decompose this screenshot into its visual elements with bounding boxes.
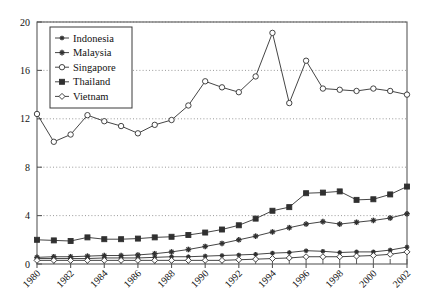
marker-circle bbox=[236, 89, 241, 94]
marker-circle bbox=[152, 122, 157, 127]
marker-circle bbox=[303, 58, 308, 63]
marker-star bbox=[287, 250, 292, 255]
marker-square bbox=[388, 192, 393, 197]
marker-star bbox=[321, 249, 326, 254]
marker-square bbox=[371, 197, 376, 202]
x-tick-label: 1990 bbox=[189, 268, 211, 290]
marker-star bbox=[253, 233, 259, 239]
y-tick-label: 16 bbox=[20, 65, 30, 76]
legend-label: Indonesia bbox=[73, 33, 114, 44]
marker-circle bbox=[68, 132, 73, 137]
x-tick-label: 1980 bbox=[20, 268, 42, 290]
x-tick-label: 2002 bbox=[390, 268, 412, 290]
marker-star bbox=[404, 211, 410, 217]
marker-circle bbox=[253, 74, 258, 79]
series-thailand bbox=[35, 184, 410, 243]
marker-circle bbox=[51, 139, 56, 144]
marker-star bbox=[387, 215, 393, 221]
marker-diamond bbox=[354, 253, 360, 259]
marker-square bbox=[304, 191, 309, 196]
marker-star bbox=[354, 219, 360, 225]
marker-square bbox=[354, 197, 359, 202]
marker-star bbox=[60, 36, 65, 41]
marker-square bbox=[51, 238, 56, 243]
marker-star bbox=[286, 225, 292, 231]
marker-circle bbox=[404, 92, 409, 97]
marker-circle bbox=[270, 30, 275, 35]
marker-diamond bbox=[253, 256, 259, 262]
marker-diamond bbox=[303, 254, 309, 260]
marker-star bbox=[169, 249, 175, 255]
marker-diamond bbox=[370, 253, 376, 259]
marker-square bbox=[102, 237, 107, 242]
marker-square bbox=[405, 184, 410, 189]
marker-square bbox=[287, 205, 292, 210]
marker-circle bbox=[354, 88, 359, 93]
marker-star bbox=[59, 50, 65, 56]
marker-square bbox=[337, 189, 342, 194]
x-tick-label: 1982 bbox=[54, 268, 76, 290]
marker-diamond bbox=[185, 257, 191, 263]
x-tick-label: 1996 bbox=[290, 268, 312, 290]
y-tick-label: 12 bbox=[20, 113, 30, 124]
marker-diamond bbox=[337, 254, 343, 260]
marker-circle bbox=[135, 131, 140, 136]
marker-square bbox=[119, 237, 124, 242]
series-line bbox=[37, 187, 407, 241]
marker-star bbox=[320, 219, 326, 225]
legend-label: Malaysia bbox=[73, 47, 112, 58]
x-tick-label: 1998 bbox=[323, 268, 345, 290]
marker-star bbox=[186, 247, 192, 253]
marker-star bbox=[303, 221, 309, 227]
marker-diamond bbox=[387, 251, 393, 257]
marker-square bbox=[35, 237, 40, 242]
marker-square bbox=[236, 223, 241, 228]
y-tick-label: 20 bbox=[20, 17, 30, 28]
marker-square bbox=[60, 79, 65, 84]
marker-diamond bbox=[320, 254, 326, 260]
marker-circle bbox=[371, 86, 376, 91]
legend-label: Singapore bbox=[73, 62, 116, 73]
marker-circle bbox=[118, 123, 123, 128]
marker-star bbox=[219, 241, 225, 247]
marker-diamond bbox=[236, 257, 242, 263]
marker-circle bbox=[85, 112, 90, 117]
marker-circle bbox=[102, 119, 107, 124]
y-axis-ticks: 048121620 bbox=[20, 17, 42, 270]
legend-label: Vietnam bbox=[73, 91, 109, 102]
x-tick-label: 2000 bbox=[357, 268, 379, 290]
marker-diamond bbox=[152, 257, 158, 263]
marker-star bbox=[270, 229, 276, 235]
marker-diamond bbox=[269, 256, 275, 262]
marker-square bbox=[85, 235, 90, 240]
marker-diamond bbox=[404, 249, 410, 255]
marker-circle bbox=[387, 88, 392, 93]
marker-circle bbox=[320, 86, 325, 91]
y-tick-label: 0 bbox=[25, 259, 30, 270]
marker-circle bbox=[186, 103, 191, 108]
chart-canvas: 048121620 198019821984198619881990199219… bbox=[0, 0, 428, 307]
marker-square bbox=[253, 216, 258, 221]
x-tick-label: 1988 bbox=[155, 268, 177, 290]
marker-circle bbox=[59, 65, 64, 70]
marker-star bbox=[270, 251, 275, 256]
marker-square bbox=[135, 236, 140, 241]
marker-star bbox=[337, 221, 343, 227]
y-tick-label: 4 bbox=[25, 210, 30, 221]
marker-star bbox=[202, 244, 208, 250]
legend-label: Thailand bbox=[73, 76, 111, 87]
marker-square bbox=[186, 232, 191, 237]
y-tick-label: 8 bbox=[25, 162, 30, 173]
x-tick-label: 1992 bbox=[222, 268, 244, 290]
marker-diamond bbox=[219, 257, 225, 263]
legend: IndonesiaMalaysiaSingaporeThailandVietna… bbox=[50, 27, 132, 108]
marker-square bbox=[152, 235, 157, 240]
series-malaysia bbox=[34, 211, 410, 260]
marker-square bbox=[220, 227, 225, 232]
marker-star bbox=[371, 218, 377, 224]
marker-star bbox=[152, 251, 158, 257]
marker-diamond bbox=[286, 255, 292, 261]
marker-circle bbox=[202, 79, 207, 84]
x-tick-label: 1986 bbox=[121, 268, 143, 290]
marker-circle bbox=[287, 100, 292, 105]
